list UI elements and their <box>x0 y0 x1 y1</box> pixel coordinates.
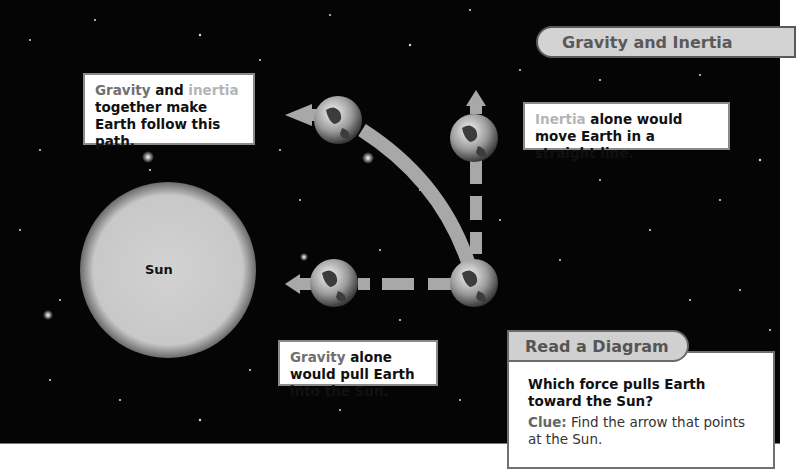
clue-label: Clue: <box>528 414 567 430</box>
combined-path-arrow <box>362 130 468 262</box>
combined-text: together make Earth follow this path. <box>95 99 220 149</box>
combined-label: Gravity and inertia together make Earth … <box>83 73 255 145</box>
sun-label: Sun <box>145 262 173 277</box>
combined-arrowhead-icon <box>285 104 312 126</box>
read-diagram-tab: Read a Diagram <box>507 330 689 362</box>
and-word: and <box>151 82 189 98</box>
inertia-label: Inertia alone would move Earth in a stra… <box>523 102 730 150</box>
read-diagram-card <box>507 351 775 469</box>
earth-icon <box>310 259 358 307</box>
inertia-word: inertia <box>188 82 238 98</box>
earth-icon <box>450 259 498 307</box>
earth-icon <box>314 96 362 144</box>
earth-icon <box>450 114 498 162</box>
gravity-label: Gravity alone would pull Earth into the … <box>278 340 438 386</box>
title-tab: Gravity and Inertia <box>536 26 796 58</box>
gravity-word: Gravity <box>95 82 151 98</box>
clue-text: Clue: Find the arrow that points at the … <box>528 414 758 448</box>
gravity-word: Gravity <box>290 349 346 365</box>
page-title: Gravity and Inertia <box>562 33 733 52</box>
question-text: Which force pulls Earth toward the Sun? <box>528 376 758 410</box>
inertia-word: Inertia <box>535 111 586 127</box>
read-diagram-heading: Read a Diagram <box>525 337 669 356</box>
